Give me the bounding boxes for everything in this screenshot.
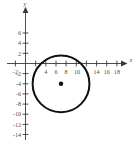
y-axis-arrow-icon	[23, 7, 29, 13]
circle-center-point	[59, 82, 63, 86]
x-tick-label: 4	[44, 69, 47, 75]
y-tick-label: -14	[13, 132, 21, 138]
x-tick-label: 8	[65, 69, 68, 75]
coordinate-plane-plot: x y -2 4 6 8 10 14 1	[0, 0, 136, 146]
y-axis: y	[23, 1, 29, 140]
y-tick-label: -4	[16, 81, 21, 87]
y-tick-label: 4	[18, 40, 21, 46]
y-axis-tick-labels: 6 4 2 -2 -4 -6 -8 -10 -12 -14	[13, 30, 21, 138]
x-tick-label: 6	[54, 69, 57, 75]
y-axis-label: y	[23, 1, 27, 7]
y-tick-label: 2	[18, 51, 21, 57]
y-tick-label: -12	[13, 122, 21, 128]
graph-figure: x y -2 4 6 8 10 14 1	[0, 0, 136, 146]
y-tick-label: -8	[16, 101, 21, 107]
x-tick-label: 16	[104, 69, 110, 75]
x-axis-arrow-icon	[121, 61, 128, 67]
y-tick-label: -2	[16, 71, 21, 77]
x-tick-label: 18	[114, 69, 120, 75]
y-tick-label: -10	[13, 111, 21, 117]
x-tick-label: 10	[74, 69, 80, 75]
y-tick-label: 6	[18, 30, 21, 36]
x-axis-tick-labels: -2 4 6 8 10 14 16 18	[13, 69, 120, 75]
x-tick-label: 14	[94, 69, 100, 75]
y-tick-label: -6	[16, 91, 21, 97]
x-axis-label: x	[129, 57, 133, 63]
